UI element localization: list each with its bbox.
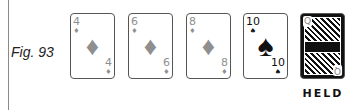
card-8-diamonds[interactable]: 8 ♦ ♦ 8 ♦ <box>186 13 231 79</box>
card-rank: Q <box>333 65 342 76</box>
card-rank: 8 <box>189 16 196 27</box>
card-rank: 4 <box>73 16 80 27</box>
card-10-spades[interactable]: 10 ♠ ♠ 10 ♠ <box>243 13 288 79</box>
divider-line <box>8 0 9 110</box>
card-rank: 6 <box>163 57 170 68</box>
card-6-diamonds[interactable]: 6 ♦ ♦ 6 ♦ <box>128 13 173 79</box>
card-index-bottom: 6 ♦ <box>163 57 170 76</box>
card-index-bottom: 4 ♦ <box>105 57 112 76</box>
card-index-bottom: 10 ♠ <box>271 57 285 76</box>
held-label: HELD <box>300 87 346 100</box>
card-4-diamonds[interactable]: 4 ♦ ♦ 4 ♦ <box>70 13 115 79</box>
card-rank: 6 <box>131 16 138 27</box>
queen-face-band <box>305 41 340 53</box>
card-rank: 10 <box>246 16 260 27</box>
card-rank: 10 <box>271 57 285 68</box>
card-rank: 4 <box>105 57 112 68</box>
card-rank: Q <box>303 16 312 27</box>
card-index-bottom: 8 ♦ <box>221 57 228 76</box>
diamond-icon: ♦ <box>221 69 228 76</box>
card-queen-hearts[interactable]: Q Q <box>300 13 345 79</box>
spade-icon: ♠ <box>271 69 285 76</box>
card-rank: 8 <box>221 57 228 68</box>
diamond-icon: ♦ <box>105 69 112 76</box>
diamond-icon: ♦ <box>163 69 170 76</box>
figure-label: Fig. 93 <box>11 44 54 60</box>
